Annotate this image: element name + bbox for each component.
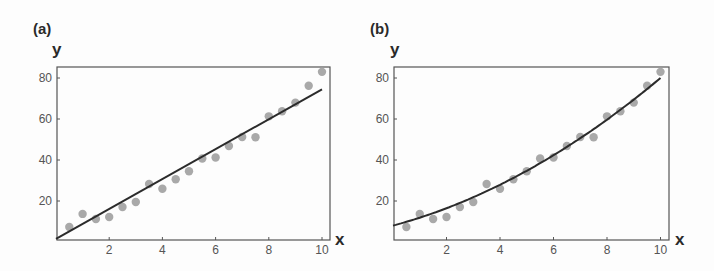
chart-panel-a: (a) y x 24681020406080 [0, 0, 357, 271]
data-point [132, 198, 140, 206]
y-tick-label: 40 [376, 153, 390, 167]
fit-line [56, 89, 322, 239]
data-point [251, 133, 259, 141]
y-tick-label: 80 [376, 71, 390, 85]
fit-curve [393, 78, 661, 226]
data-point [211, 153, 219, 161]
y-tick-label: 20 [39, 194, 53, 208]
plot-area-a: 24681020406080 [0, 0, 357, 271]
plot-frame [57, 67, 330, 240]
y-tick-label: 20 [376, 194, 390, 208]
data-point [158, 185, 166, 193]
data-point [442, 213, 450, 221]
data-point [482, 180, 490, 188]
x-tick-label: 4 [159, 243, 166, 257]
y-tick-label: 80 [39, 71, 53, 85]
x-tick-label: 8 [265, 243, 272, 257]
data-point [78, 210, 86, 218]
data-point [656, 68, 664, 76]
data-point [105, 213, 113, 221]
x-tick-label: 10 [654, 243, 668, 257]
y-tick-label: 60 [39, 112, 53, 126]
chart-panel-b: (b) y x 24681020406080 [357, 0, 714, 271]
x-tick-label: 6 [550, 243, 557, 257]
data-point [589, 133, 597, 141]
x-tick-label: 8 [604, 243, 611, 257]
data-point [172, 175, 180, 183]
data-point [402, 223, 410, 231]
x-tick-label: 2 [106, 243, 113, 257]
data-point [185, 167, 193, 175]
data-point [429, 215, 437, 223]
x-tick-label: 10 [315, 243, 329, 257]
x-tick-label: 4 [497, 243, 504, 257]
y-tick-label: 40 [39, 153, 53, 167]
data-point [318, 68, 326, 76]
x-tick-label: 2 [443, 243, 450, 257]
plot-area-b: 24681020406080 [357, 0, 714, 271]
plot-frame [394, 67, 669, 240]
y-tick-label: 60 [376, 112, 390, 126]
x-tick-label: 6 [212, 243, 219, 257]
data-point [305, 82, 313, 90]
